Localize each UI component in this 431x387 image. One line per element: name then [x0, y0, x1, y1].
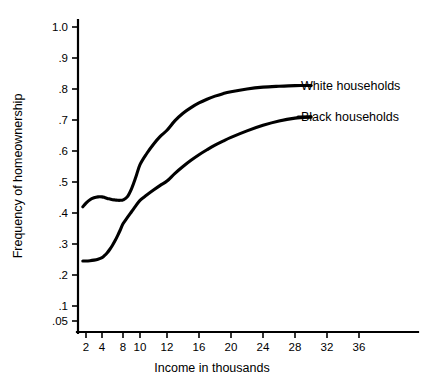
homeownership-line-chart: 1.0.9.8.7.6.5.4.3.2.1.05 248101216202428…: [0, 0, 431, 387]
y-tick-label: .7: [58, 114, 68, 126]
y-tick-label: .9: [58, 52, 68, 64]
x-tick-label: 36: [353, 341, 366, 353]
y-tick-label: .4: [58, 207, 68, 219]
x-tick-label: 16: [193, 341, 206, 353]
x-tick-label: 12: [161, 341, 174, 353]
x-tick-label: 10: [134, 341, 147, 353]
series-line-white-households: [83, 86, 311, 207]
chart-figure: 1.0.9.8.7.6.5.4.3.2.1.05 248101216202428…: [0, 0, 431, 387]
y-axis-tick-labels: 1.0.9.8.7.6.5.4.3.2.1.05: [52, 21, 69, 327]
x-tick-label: 8: [120, 341, 126, 353]
series-label-black-households: Black households: [301, 110, 399, 124]
x-tick-label: 24: [257, 341, 270, 353]
y-tick-label: .6: [58, 145, 68, 157]
x-tick-label: 2: [83, 341, 89, 353]
y-tick-label: 1.0: [52, 21, 68, 33]
x-axis-tick-labels: 2481012162024283236: [83, 341, 366, 353]
series-label-white-households: White households: [301, 79, 400, 93]
x-tick-label: 32: [321, 341, 334, 353]
x-tick-label: 4: [99, 341, 106, 353]
y-axis-title: Frequency of homeownership: [11, 94, 25, 259]
series-line-black-households: [83, 117, 311, 261]
x-axis-title: Income in thousands: [154, 361, 269, 375]
x-tick-label: 28: [289, 341, 302, 353]
y-axis-group: 1.0.9.8.7.6.5.4.3.2.1.05: [52, 20, 78, 333]
y-tick-label: .8: [58, 83, 68, 95]
y-tick-label: .05: [52, 315, 68, 327]
y-tick-label: .2: [58, 269, 68, 281]
y-tick-label: .1: [58, 300, 68, 312]
y-tick-label: .3: [58, 238, 68, 250]
x-axis-group: 2481012162024283236: [77, 332, 418, 353]
x-tick-label: 20: [225, 341, 238, 353]
y-tick-label: .5: [58, 176, 68, 188]
plot-area: [83, 86, 311, 262]
